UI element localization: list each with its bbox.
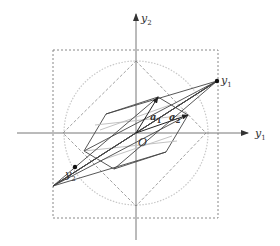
point-y1-label: y1 [220, 74, 232, 89]
horizontal-axis-label: y1 [254, 127, 266, 142]
vertical-axis-label: y2 [140, 12, 152, 27]
diagram-canvas: y2 y1 O a1 a2 y1 y2 [0, 0, 280, 246]
origin-label: O [138, 136, 147, 149]
diagram-svg: y2 y1 O a1 a2 y1 y2 [0, 0, 280, 246]
point-y2 [73, 165, 77, 169]
point-y1 [215, 79, 219, 83]
